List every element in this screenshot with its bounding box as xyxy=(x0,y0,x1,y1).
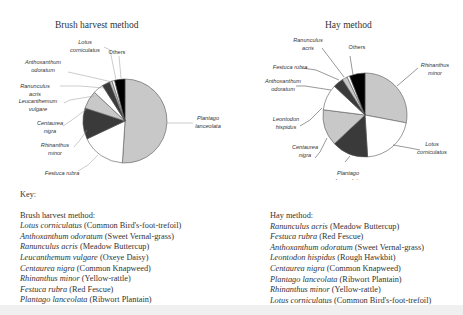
key-item-common: (Oxeye Daisy) xyxy=(98,253,149,262)
pie-slice-rhinanthus-minor xyxy=(365,73,407,123)
slice-label: Anthoxanthum xyxy=(264,78,301,84)
slice-label: acris xyxy=(302,45,314,51)
key-item: Ranunculus acris (Meadow Buttercup) xyxy=(270,222,431,233)
key-item-latin: Anthoxanthum odoratum xyxy=(20,232,103,241)
hay-pie-chart: RhinanthusminorLotuscorniculatusPlantago… xyxy=(232,0,463,180)
slice-label: Others xyxy=(349,44,366,50)
slice-label: odoratum xyxy=(271,86,295,92)
key-item-common: (Red Fescue) xyxy=(317,232,363,241)
key-item: Rhinanthus minor (Yellow-rattle) xyxy=(270,285,431,296)
key-item-latin: Ranunculus acris xyxy=(20,242,78,251)
key-item: Festuca rubra (Red Fescue) xyxy=(20,285,181,296)
key-hay-section: Hay method: Ranunculus acris (Meadow But… xyxy=(270,211,431,306)
key-item-latin: Plantago lanceolata xyxy=(270,275,338,284)
slice-label: corniculatus xyxy=(417,149,447,155)
key-item-latin: Leucanthemum vulgare xyxy=(20,253,98,262)
slice-label: Ranunculus xyxy=(20,83,50,89)
key-item-common: (Sweet Vernal-grass) xyxy=(353,243,424,252)
key-item-common: (Yellow-rattle) xyxy=(330,285,381,294)
key-item-latin: Centaurea nigra xyxy=(20,264,75,273)
slice-label: Leucanthemum xyxy=(19,98,58,104)
key-item: Lotus corniculatus (Common Bird's-foot-t… xyxy=(20,221,181,232)
key-item-latin: Festuca rubra xyxy=(20,285,67,294)
slice-label: Leontodon xyxy=(273,116,299,122)
key-item-latin: Centaurea nigra xyxy=(270,264,325,273)
key-brush-heading: Brush harvest method: xyxy=(20,211,181,222)
slice-label: Rhinanthus xyxy=(421,62,450,68)
key-item-common: (Common Bird's-foot-trefoil) xyxy=(332,296,431,305)
slice-label: Plantago xyxy=(337,170,359,176)
key-item-latin: Leontodon hispidus xyxy=(270,253,335,262)
pie-slice-plantago-lanceolata xyxy=(122,79,167,163)
key-item-common: (Sweet Vernal-grass) xyxy=(103,232,174,241)
slice-label: Festuca rubra xyxy=(273,64,308,70)
page-bottom-edge xyxy=(0,305,463,315)
key-item: Ranunculus acris (Meadow Buttercup) xyxy=(20,242,181,253)
key-item-common: (Meadow Buttercup) xyxy=(328,222,399,231)
key-item: Anthoxanthum odoratum (Sweet Vernal-gras… xyxy=(270,243,431,254)
key-hay-list: Ranunculus acris (Meadow Buttercup)Festu… xyxy=(270,222,431,307)
slice-label: Others xyxy=(109,49,126,55)
key-item-latin: Anthoxanthum odoratum xyxy=(270,243,353,252)
slice-label: minor xyxy=(428,70,443,76)
slice-label: Rhinanthus xyxy=(41,142,70,148)
slice-label: Lotus xyxy=(78,39,92,45)
key-item: Leucanthemum vulgare (Oxeye Daisy) xyxy=(20,253,181,264)
brush-pie-slices xyxy=(83,79,167,163)
key-item-latin: Festuca rubra xyxy=(270,232,317,241)
key-brush-list: Lotus corniculatus (Common Bird's-foot-t… xyxy=(20,221,181,306)
key-item: Centaurea nigra (Common Knapweed) xyxy=(20,264,181,275)
slice-label: nigra xyxy=(44,128,56,134)
key-item-common: (Ribwort Plantain) xyxy=(338,275,402,284)
key-item-latin: Lotus corniculatus xyxy=(20,221,82,230)
slice-label: minor xyxy=(48,150,63,156)
slice-label: Ranunculus xyxy=(293,37,323,43)
key-item-latin: Lotus corniculatus xyxy=(270,296,332,305)
key-item-common: (Common Knapweed) xyxy=(325,264,401,273)
key-item: Festuca rubra (Red Fescue) xyxy=(270,232,431,243)
slice-label: acris xyxy=(29,91,41,97)
key-item-common: (Rough Hawkbit) xyxy=(335,253,395,262)
key-item-latin: Rhinanthus minor xyxy=(270,285,330,294)
key-hay-heading: Hay method: xyxy=(270,211,431,222)
slice-label: odoratum xyxy=(31,67,55,73)
slice-label: hispidus xyxy=(276,124,297,130)
slice-label: vulgare xyxy=(29,106,47,112)
key-item-latin: Ranunculus acris xyxy=(270,222,328,231)
key-item-common: (Common Knapweed) xyxy=(75,264,151,273)
key-item-latin: Plantago lanceolata xyxy=(20,295,88,304)
slice-label: Centaurea xyxy=(292,144,318,150)
key-item-common: (Meadow Buttercup) xyxy=(78,242,149,251)
slice-label: nigra xyxy=(299,152,311,158)
slice-label: Lotus xyxy=(425,141,439,147)
key-item: Leontodon hispidus (Rough Hawkbit) xyxy=(270,253,431,264)
slice-label: lanceolata xyxy=(335,178,361,180)
key-item: Plantago lanceolata (Ribwort Plantain) xyxy=(270,275,431,286)
key-item-common: (Ribwort Plantain) xyxy=(88,295,152,304)
key-item-common: (Red Fescue) xyxy=(67,285,113,294)
brush-pie-chart: PlantagolanceolataFestuca rubraRhinanthu… xyxy=(0,0,232,180)
key-item-common: (Yellow-rattle) xyxy=(80,274,131,283)
key-item: Rhinanthus minor (Yellow-rattle) xyxy=(20,274,181,285)
slice-label: Anthoxanthum xyxy=(24,59,61,65)
key-item-common: (Common Bird's-foot-trefoil) xyxy=(82,221,181,230)
slice-label: Plantago xyxy=(197,115,219,121)
key-item: Anthoxanthum odoratum (Sweet Vernal-gras… xyxy=(20,232,181,243)
slice-label: lanceolata xyxy=(195,123,221,129)
key-heading: Key: xyxy=(20,190,181,201)
key-item: Centaurea nigra (Common Knapweed) xyxy=(270,264,431,275)
hay-pie-slices xyxy=(323,73,407,157)
slice-label: corniculatus xyxy=(70,47,100,53)
slice-label: Centaurea xyxy=(37,120,63,126)
key-item-latin: Rhinanthus minor xyxy=(20,274,80,283)
key-section: Key: Brush harvest method: Lotus cornicu… xyxy=(20,190,181,306)
slice-label: Festuca rubra xyxy=(45,170,80,176)
